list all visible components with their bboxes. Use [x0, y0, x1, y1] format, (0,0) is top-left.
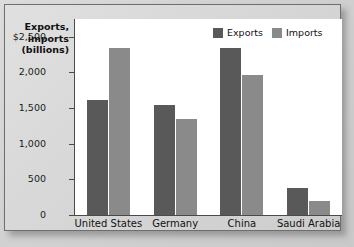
y-tick-mark: [69, 144, 75, 145]
y-tick-label: $2,500: [0, 32, 46, 42]
chart-legend: Exports Imports: [213, 28, 323, 38]
legend-swatch-exports-icon: [213, 28, 223, 38]
bar-imports-saudi-arabia: [309, 201, 330, 215]
bar-exports-saudi-arabia: [287, 188, 308, 215]
y-tick-mark: [69, 37, 75, 38]
legend-swatch-imports-icon: [272, 28, 282, 38]
legend-item-imports: Imports: [272, 28, 322, 38]
y-tick-label: 2,000: [0, 67, 46, 77]
y-tick-mark: [69, 215, 75, 216]
y-axis-line: [74, 19, 75, 216]
y-tick-mark: [69, 72, 75, 73]
y-tick-mark: [69, 108, 75, 109]
bar-exports-united-states: [87, 100, 108, 215]
bar-imports-china: [242, 75, 263, 215]
chart-figure: Exports, imports (billions) 05001,0001,5…: [0, 0, 354, 247]
chart-card: Exports, imports (billions) 05001,0001,5…: [4, 4, 341, 231]
bar-imports-united-states: [109, 48, 130, 215]
legend-label-imports: Imports: [286, 28, 322, 38]
bar-exports-germany: [154, 105, 175, 215]
y-axis-title-line-3: (billions): [11, 44, 69, 56]
y-tick-mark: [69, 179, 75, 180]
y-tick-label: 500: [0, 174, 46, 184]
y-tick-label: 1,000: [0, 139, 46, 149]
x-axis-label-saudi-arabia: Saudi Arabia: [259, 218, 354, 229]
y-tick-label: 1,500: [0, 103, 46, 113]
y-tick-label: 0: [0, 210, 46, 220]
bar-imports-germany: [176, 119, 197, 215]
legend-item-exports: Exports: [213, 28, 263, 38]
legend-label-exports: Exports: [227, 28, 263, 38]
x-axis-line: [74, 215, 342, 216]
bar-exports-china: [220, 48, 241, 215]
